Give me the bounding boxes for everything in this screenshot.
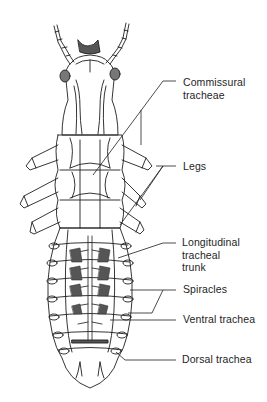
leader-dorsal-trachea bbox=[116, 352, 176, 360]
eye-left bbox=[60, 70, 70, 82]
larva-tracheal-system-figure: Commissural tracheae Legs Longitudinal t… bbox=[0, 0, 267, 402]
abdominal-segments bbox=[49, 243, 131, 351]
label-legs: Legs bbox=[183, 160, 206, 173]
leader-lines bbox=[93, 81, 176, 360]
antenna-right bbox=[106, 23, 129, 64]
leader-commissural-tracheae bbox=[93, 81, 176, 175]
leader-spiracles bbox=[128, 290, 176, 313]
label-longitudinal-tracheal-trunk: Longitudinal tracheal trunk bbox=[182, 236, 240, 274]
label-dorsal-trachea: Dorsal trachea bbox=[182, 353, 252, 366]
eye-right bbox=[110, 68, 120, 80]
labrum bbox=[78, 40, 100, 54]
legs-left bbox=[20, 145, 60, 234]
tracheal-clusters bbox=[70, 248, 110, 314]
label-ventral-trachea: Ventral trachea bbox=[183, 313, 255, 326]
antenna-left bbox=[54, 25, 74, 64]
thorax bbox=[55, 135, 125, 228]
label-commissural-tracheae: Commissural tracheae bbox=[183, 76, 245, 101]
abdomen bbox=[48, 228, 133, 388]
label-spiracles: Spiracles bbox=[183, 283, 227, 296]
larva-drawing bbox=[0, 0, 267, 402]
